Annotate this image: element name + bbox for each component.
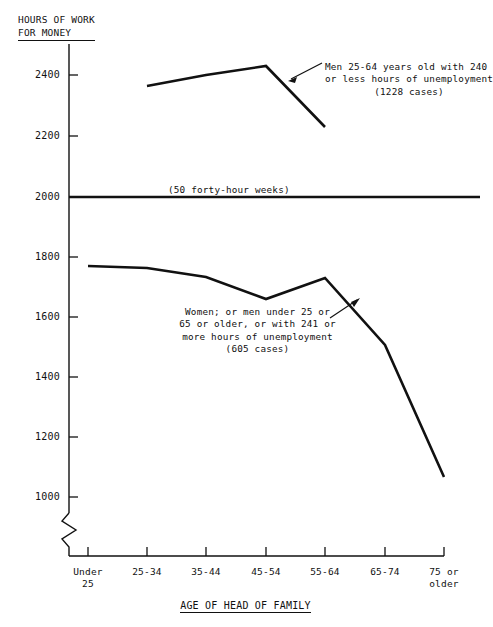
x-tick-label-75-or-older-line2: older — [429, 578, 459, 589]
annotation-upper-line1: Men 25-64 years old with 240 — [325, 61, 487, 72]
y-axis-title-line2: FOR MONEY — [18, 27, 71, 38]
annotation-lower-series: Women; or men under 25 or 65 or older, o… — [150, 306, 365, 356]
y-tick-marks — [69, 75, 78, 497]
annotation-upper-line2: or less hours of unemployment — [325, 73, 493, 84]
y-tick-label-1600: 1600 — [24, 311, 60, 322]
annotation-lower-line4: (605 cases) — [226, 343, 290, 354]
y-tick-label-1800: 1800 — [24, 251, 60, 262]
y-axis-break-icon — [62, 513, 76, 556]
annotation-lower-line3: more hours of unemployment — [182, 331, 333, 342]
y-tick-label-1400: 1400 — [24, 371, 60, 382]
x-axis-title-text: AGE OF HEAD OF FAMILY — [180, 600, 311, 613]
x-tick-label-under-25-line2: 25 — [82, 578, 94, 589]
series-line-women-and-other-men — [88, 266, 444, 477]
y-axis-title: HOURS OF WORKFOR MONEY — [18, 14, 95, 41]
annotation-reference-line: (50 forty-hour weeks) — [168, 184, 290, 196]
y-tick-label-2200: 2200 — [24, 130, 60, 141]
annotation-lower-line1: Women; or men under 25 or — [185, 306, 330, 317]
annotation-upper-line3: (1228 cases) — [325, 86, 493, 98]
annotation-upper-series: Men 25-64 years old with 240 or less hou… — [325, 61, 493, 98]
annotation-leader-upper — [288, 63, 322, 83]
y-axis-title-line1: HOURS OF WORK — [18, 14, 95, 25]
x-axis-title: AGE OF HEAD OF FAMILY — [0, 600, 491, 611]
y-tick-label-1200: 1200 — [24, 431, 60, 442]
y-tick-label-1000: 1000 — [24, 491, 60, 502]
x-tick-label-under-25-line1: Under — [73, 566, 103, 577]
annotation-lower-line2: 65 or older, or with 241 or — [179, 318, 336, 329]
y-tick-label-2400: 2400 — [24, 69, 60, 80]
y-tick-label-2000: 2000 — [24, 191, 60, 202]
x-tick-label-75-or-older-line1: 75 or — [429, 566, 459, 577]
x-tick-marks — [88, 547, 444, 556]
x-tick-label-75-or-older: 75 orolder — [409, 566, 479, 590]
